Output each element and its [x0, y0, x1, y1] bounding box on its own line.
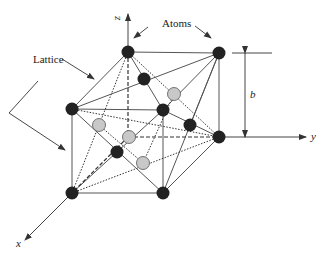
atom-upper-mid [138, 73, 151, 86]
atoms-label: Atoms [162, 17, 191, 29]
z-axis-label: z [110, 16, 122, 20]
atom-top-front-right [157, 104, 170, 117]
y-axis-label: y [311, 130, 316, 142]
lattice-label: Lattice [33, 53, 64, 65]
lattice-svg [0, 0, 323, 257]
atom-top-front-left [66, 103, 79, 116]
atom-top-back-right [213, 47, 226, 60]
atom-gray-left [93, 119, 106, 132]
atom-gray-center [123, 131, 136, 144]
atom-gray-upper-right [168, 88, 181, 101]
atom-bottom-back-right [213, 131, 226, 144]
crystal-lattice-diagram: Atoms Lattice b y x z [0, 0, 323, 257]
atom-top-back-left [122, 46, 135, 59]
atom-bottom-front-left [66, 187, 79, 200]
leader-lines [9, 26, 211, 150]
atom-right-mid [184, 119, 197, 132]
x-axis [25, 193, 72, 240]
dimension-b-label: b [250, 88, 256, 100]
atom-bottom-front-right [157, 187, 170, 200]
x-axis-label: x [16, 237, 21, 249]
atom-lower-mid [111, 146, 124, 159]
atom-gray-lower [137, 157, 150, 170]
axes [25, 14, 306, 240]
